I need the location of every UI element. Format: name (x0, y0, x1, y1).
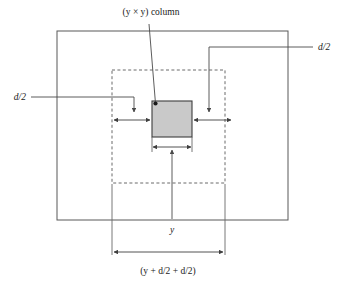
column-width-label: y (169, 225, 175, 235)
column-tributary-area-diagram: (y × y) column d/2 d/2 y (y + d/2 + d/2) (0, 0, 344, 289)
right-gap-label: d/2 (318, 42, 330, 52)
column-label: (y × y) column (123, 7, 180, 18)
figure-container: (y × y) column d/2 d/2 y (y + d/2 + d/2) (0, 0, 344, 289)
total-width-label: (y + d/2 + d/2) (140, 266, 196, 277)
column-rectangle (152, 101, 192, 137)
column-label-anchor-dot (153, 101, 157, 105)
figure-background (0, 0, 344, 289)
left-gap-label: d/2 (14, 92, 26, 102)
